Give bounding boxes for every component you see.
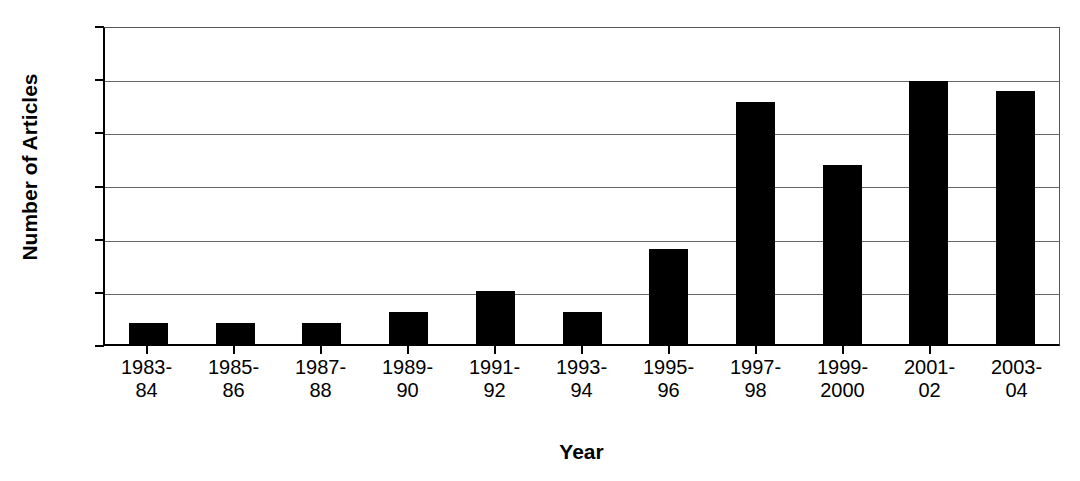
x-tick-label-line1: 1995- [625, 356, 712, 379]
bar-1985-86[interactable] [216, 323, 255, 344]
bars-layer [105, 28, 1059, 344]
x-axis-title: Year [103, 440, 1060, 464]
bar-1987-88[interactable] [302, 323, 341, 344]
x-tick-label-1983-84: 1983- 84 [103, 356, 190, 402]
bar-2001-02[interactable] [909, 81, 948, 344]
x-tick-label-1989-90: 1989- 90 [364, 356, 451, 402]
x-tick-label-line2: 02 [886, 379, 973, 402]
bar-slot [105, 28, 192, 344]
bar-slot [539, 28, 626, 344]
bar-slot [452, 28, 539, 344]
x-tick-label-line1: 1991- [451, 356, 538, 379]
x-tick-label-line2: 98 [712, 379, 799, 402]
bar-slot [712, 28, 799, 344]
x-tick-label-line2: 92 [451, 379, 538, 402]
x-tick-label-line2: 94 [538, 379, 625, 402]
x-tick-label-line1: 1983- [103, 356, 190, 379]
bar-1999-2000[interactable] [823, 165, 862, 344]
x-tick-label-1993-94: 1993- 94 [538, 356, 625, 402]
bar-2003-04[interactable] [996, 91, 1035, 344]
x-tick-label-line2: 04 [973, 379, 1060, 402]
x-tick-mark [668, 346, 670, 354]
x-tick-label-line2: 90 [364, 379, 451, 402]
x-tick-label-1987-88: 1987- 88 [277, 356, 364, 402]
x-tick-label-line1: 1989- [364, 356, 451, 379]
bar-slot [799, 28, 886, 344]
x-tick-label-line1: 1985- [190, 356, 277, 379]
x-tick-label-line1: 2003- [973, 356, 1060, 379]
plot-area [103, 27, 1060, 346]
x-tick-label-line2: 88 [277, 379, 364, 402]
x-tick-mark [320, 346, 322, 354]
bar-1983-84[interactable] [129, 323, 168, 344]
x-tick-label-2003-04: 2003- 04 [973, 356, 1060, 402]
bar-slot [192, 28, 279, 344]
x-tick-label-1999-2000: 1999- 2000 [799, 356, 886, 402]
bar-slot [972, 28, 1059, 344]
x-tick-label-line1: 1999- [799, 356, 886, 379]
x-tick-label-line1: 1987- [277, 356, 364, 379]
x-axis-tick-labels: 1983- 84 1985- 86 1987- 88 1989- 90 1991… [103, 356, 1060, 402]
bar-1991-92[interactable] [476, 291, 515, 344]
bar-slot [886, 28, 973, 344]
x-tick-label-1985-86: 1985- 86 [190, 356, 277, 402]
bar-1993-94[interactable] [563, 312, 602, 344]
x-tick-label-line1: 2001- [886, 356, 973, 379]
x-tick-label-line1: 1993- [538, 356, 625, 379]
x-tick-label-line1: 1997- [712, 356, 799, 379]
x-tick-mark [146, 346, 148, 354]
x-tick-label-1997-98: 1997- 98 [712, 356, 799, 402]
x-tick-label-line2: 96 [625, 379, 712, 402]
bar-1997-98[interactable] [736, 102, 775, 344]
bar-1989-90[interactable] [389, 312, 428, 344]
x-tick-label-line2: 2000 [799, 379, 886, 402]
bar-slot [278, 28, 365, 344]
x-tick-mark [407, 346, 409, 354]
bar-1995-96[interactable] [649, 249, 688, 344]
bar-chart: Number of Articles 30 25 20 15 10 5 0 [0, 0, 1080, 481]
x-tick-label-2001-02: 2001- 02 [886, 356, 973, 402]
x-tick-mark [494, 346, 496, 354]
bar-slot [625, 28, 712, 344]
bar-slot [365, 28, 452, 344]
x-tick-label-1991-92: 1991- 92 [451, 356, 538, 402]
x-tick-mark [581, 346, 583, 354]
y-axis-title: Number of Articles [18, 2, 42, 332]
x-tick-label-line2: 84 [103, 379, 190, 402]
x-tick-mark [755, 346, 757, 354]
x-tick-mark [929, 346, 931, 354]
x-tick-label-line2: 86 [190, 379, 277, 402]
x-tick-mark [233, 346, 235, 354]
x-tick-label-1995-96: 1995- 96 [625, 356, 712, 402]
x-tick-mark [842, 346, 844, 354]
